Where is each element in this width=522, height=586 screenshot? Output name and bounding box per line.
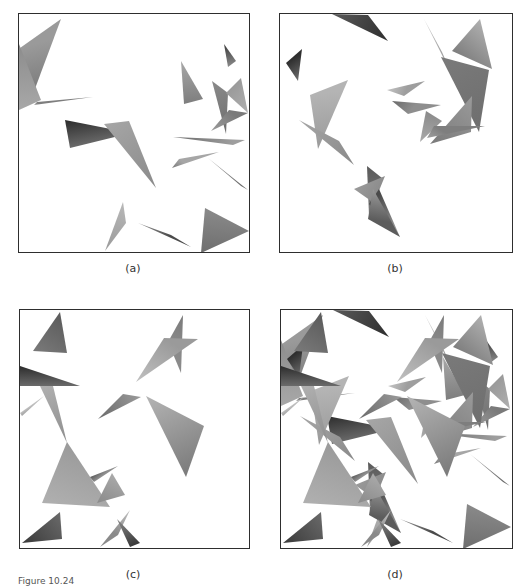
triangle (34, 97, 93, 105)
panel-label-b: (b) (375, 263, 415, 275)
panel-label-d: (d) (375, 569, 415, 581)
triangle (104, 121, 156, 188)
triangle (453, 315, 493, 365)
triangle (22, 512, 62, 543)
triangle (138, 223, 191, 247)
figure-caption: Figure 10.24 (18, 576, 74, 586)
triangles-canvas (280, 14, 513, 253)
triangle (40, 386, 67, 443)
triangle (359, 394, 402, 419)
triangle (470, 454, 510, 486)
triangles-canvas (20, 310, 250, 549)
triangle (387, 81, 425, 96)
triangle (20, 396, 44, 416)
triangle (332, 14, 388, 41)
panel-b (279, 13, 513, 253)
panel-a (18, 13, 250, 253)
triangle (333, 310, 389, 337)
triangle (146, 396, 204, 477)
triangle (98, 394, 141, 419)
triangle (488, 374, 510, 409)
triangle (208, 158, 248, 190)
triangle (33, 312, 67, 353)
triangle (286, 49, 302, 81)
triangle (224, 44, 236, 67)
triangle (388, 377, 426, 392)
triangles-canvas (281, 310, 513, 549)
triangle (392, 101, 441, 114)
triangle (281, 366, 341, 386)
triangle (117, 519, 140, 547)
triangle (97, 473, 125, 503)
triangle (173, 137, 245, 145)
triangle (400, 519, 453, 543)
panel-d (280, 309, 513, 549)
panel-c (19, 309, 250, 549)
triangle (181, 61, 203, 104)
triangle (407, 396, 465, 477)
triangle (172, 152, 219, 168)
triangle (226, 78, 248, 113)
triangle (368, 189, 400, 237)
panel-label-c: (c) (113, 569, 153, 581)
triangle (463, 504, 511, 549)
triangles-canvas (19, 14, 250, 253)
triangle (20, 366, 80, 386)
triangle (201, 208, 249, 253)
triangle (452, 19, 492, 69)
triangle (283, 512, 323, 543)
panel-label-a: (a) (113, 263, 153, 275)
triangle (211, 110, 248, 131)
triangle (105, 202, 126, 251)
triangle (136, 338, 198, 382)
